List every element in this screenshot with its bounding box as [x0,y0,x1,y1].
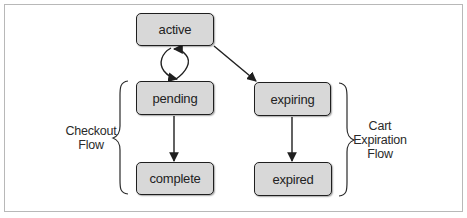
state-pending: pending [136,81,214,115]
cart-expiration-flow-label-line2: Expiration [350,133,410,147]
checkout-flow-label-line2: Flow [62,138,120,152]
diagram-edges [0,0,467,218]
state-expiring-label: expiring [271,92,315,107]
checkout-flow-label: Checkout Flow [62,124,120,152]
state-complete-label: complete [149,171,200,186]
edge-active-pending-loop [161,48,188,79]
state-pending-label: pending [153,91,198,106]
checkout-flow-label-line1: Checkout [62,124,120,138]
state-expired-label: expired [272,172,313,187]
cart-expiration-flow-label: Cart Expiration Flow [350,119,410,161]
state-expired: expired [254,162,332,196]
cart-expiration-flow-label-line3: Flow [350,147,410,161]
state-complete: complete [136,162,214,195]
edge-active-expiring [214,46,256,81]
state-expiring: expiring [254,82,331,116]
cart-expiration-flow-label-line1: Cart [350,119,410,133]
state-active: active [136,13,214,46]
state-active-label: active [159,22,192,37]
